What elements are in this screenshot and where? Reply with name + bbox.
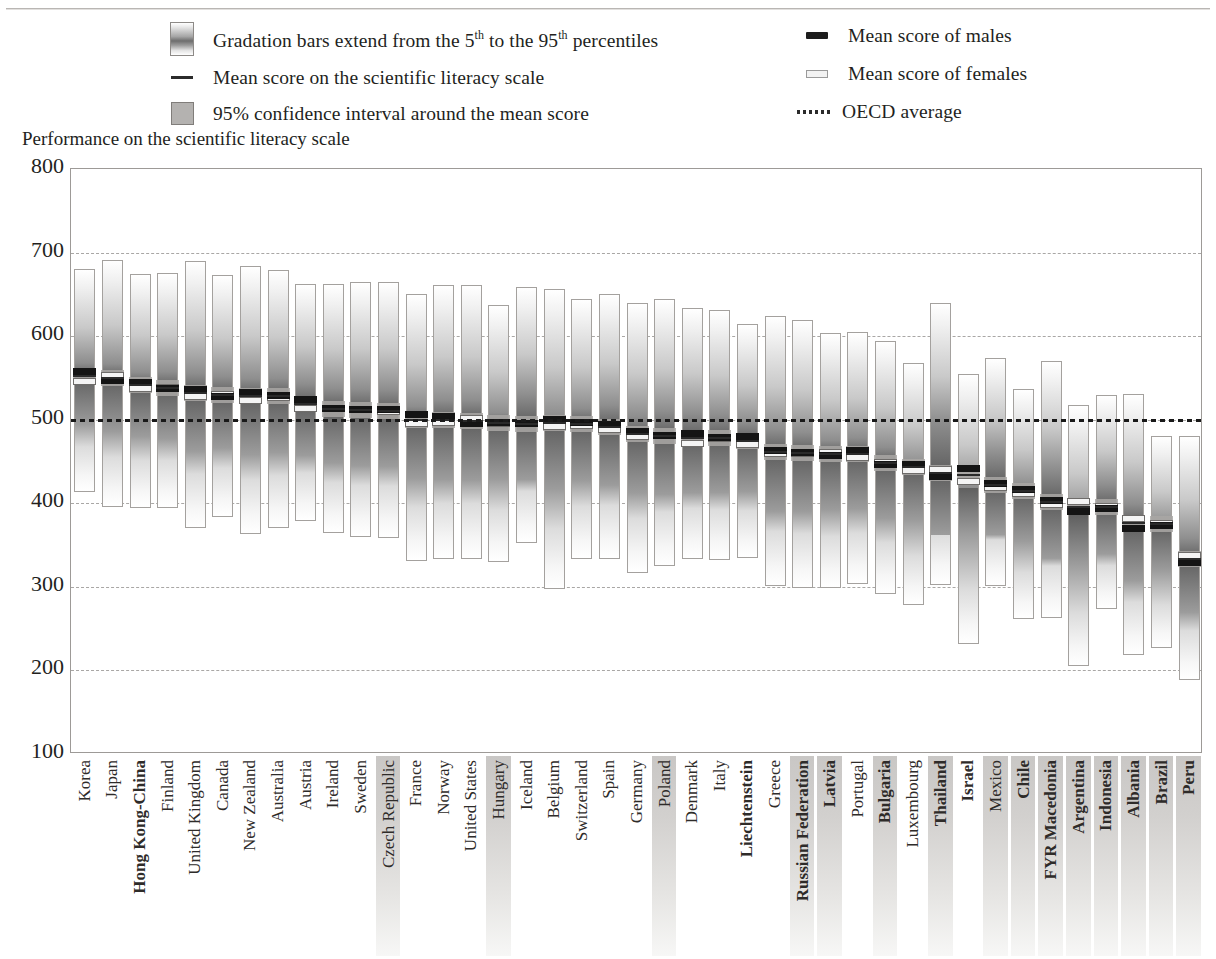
female-mean-marker	[681, 440, 704, 447]
mean-marker	[515, 423, 538, 425]
x-axis-label-text: France	[407, 760, 424, 806]
x-axis-label: Iceland	[512, 756, 540, 956]
oecd-average-line	[71, 419, 1201, 422]
x-axis-label: Ireland	[318, 756, 346, 956]
percentile-bar	[488, 305, 509, 562]
x-axis-label-text: Greece	[766, 760, 783, 808]
x-axis-label: Germany	[622, 756, 650, 956]
x-axis-label: Brazil	[1147, 756, 1175, 956]
mean-marker	[1095, 506, 1118, 508]
y-axis-tick-label: 600	[4, 322, 64, 344]
female-mean-marker	[957, 478, 980, 485]
x-axis-label: Finland	[153, 756, 181, 956]
x-axis-label: New Zealand	[236, 756, 264, 956]
percentile-bar	[903, 363, 924, 605]
x-axis-label: Portugal	[843, 756, 871, 956]
y-axis-tick-label: 100	[4, 740, 64, 762]
x-axis-label-text: Switzerland	[572, 760, 589, 841]
x-axis-label: Albania	[1119, 756, 1147, 956]
plot-area	[70, 168, 1202, 753]
mean-marker	[736, 440, 759, 442]
female-mean-marker	[239, 397, 262, 404]
mean-marker	[1012, 490, 1035, 492]
mean-marker	[1150, 523, 1173, 525]
x-axis-label-text: Germany	[627, 760, 644, 823]
y-axis-tick-label: 400	[4, 489, 64, 511]
x-axis-label: United States	[457, 756, 485, 956]
mean-marker	[929, 472, 952, 474]
x-axis-label-text: Belgium	[545, 760, 562, 819]
mean-marker	[819, 453, 842, 455]
mean-marker	[294, 403, 317, 405]
x-axis-label: Peru	[1174, 756, 1202, 956]
x-axis-label-text: Ireland	[324, 760, 341, 808]
x-axis-label-text: Russian Federation	[793, 760, 810, 901]
x-axis-label-text: Hong Kong-China	[131, 760, 148, 894]
percentile-bar	[1151, 436, 1172, 647]
mean-marker	[101, 377, 124, 379]
x-axis-label-text: Italy	[710, 760, 727, 791]
x-axis-label-text: Norway	[434, 760, 451, 815]
y-axis-tick-label: 300	[4, 573, 64, 595]
male-mean-marker	[957, 465, 980, 472]
female-mean-marker	[1122, 515, 1145, 522]
x-axis-label-text: Albania	[1124, 760, 1141, 818]
x-axis-label: Spain	[595, 756, 623, 956]
x-axis-label-text: Canada	[213, 760, 230, 811]
mean-marker	[846, 453, 869, 455]
mean-marker	[626, 433, 649, 435]
x-axis-label: Korea	[70, 756, 98, 956]
x-axis-label-text: Thailand	[931, 760, 948, 826]
x-axis-label-text: Peru	[1180, 760, 1197, 795]
mean-marker	[1178, 558, 1201, 560]
mean-marker	[570, 423, 593, 425]
x-axis-label-text: Argentina	[1069, 760, 1086, 834]
x-axis-label-text: Luxembourg	[904, 760, 921, 848]
x-axis-label-text: Spain	[600, 760, 617, 799]
x-axis-label: Czech Republic	[374, 756, 402, 956]
female-mean-marker	[1067, 498, 1090, 505]
percentile-bar	[985, 358, 1006, 586]
x-axis-label-text: Sweden	[351, 760, 368, 814]
x-axis-label-text: Israel	[959, 760, 976, 802]
x-axis-label-text: FYR Macedonia	[1042, 760, 1059, 879]
y-axis-tick-label: 700	[4, 239, 64, 261]
male-mean-marker	[681, 430, 704, 437]
gridline	[71, 253, 1201, 254]
x-axis-label: Austria	[291, 756, 319, 956]
x-axis-label-text: Czech Republic	[379, 760, 396, 868]
x-axis-label: Greece	[760, 756, 788, 956]
x-axis-label: Russian Federation	[788, 756, 816, 956]
x-axis-label-text: Finland	[158, 760, 175, 812]
female-mean-marker	[294, 405, 317, 412]
female-mean-marker	[73, 378, 96, 385]
mean-marker	[349, 409, 372, 411]
x-axis-label: United Kingdom	[180, 756, 208, 956]
gridline	[71, 670, 1201, 671]
x-axis-label: Chile	[1009, 756, 1037, 956]
x-axis-label: Argentina	[1064, 756, 1092, 956]
percentile-bar	[930, 303, 951, 585]
mean-marker	[543, 422, 566, 424]
x-axis-label-text: Chile	[1014, 760, 1031, 799]
male-mean-marker	[1067, 508, 1090, 515]
x-axis-label: Belgium	[539, 756, 567, 956]
y-axis-tick-label: 800	[4, 155, 64, 177]
x-axis-label: Latvia	[815, 756, 843, 956]
male-mean-marker	[1122, 525, 1145, 532]
x-axis-label: Australia	[263, 756, 291, 956]
x-axis-label-text: Austria	[296, 760, 313, 810]
x-axis-label: Norway	[429, 756, 457, 956]
male-mean-marker	[73, 368, 96, 375]
x-axis-label: Switzerland	[567, 756, 595, 956]
x-axis-label: Liechtenstein	[733, 756, 761, 956]
x-axis-label: France	[401, 756, 429, 956]
mean-marker	[73, 375, 96, 377]
y-axis-tick-label: 200	[4, 656, 64, 678]
mean-marker	[1040, 501, 1063, 503]
mean-marker	[211, 394, 234, 396]
mean-marker	[708, 437, 731, 439]
x-axis-label-text: Liechtenstein	[738, 760, 755, 857]
x-axis-label: Thailand	[926, 756, 954, 956]
x-axis-label-text: United States	[462, 760, 479, 851]
